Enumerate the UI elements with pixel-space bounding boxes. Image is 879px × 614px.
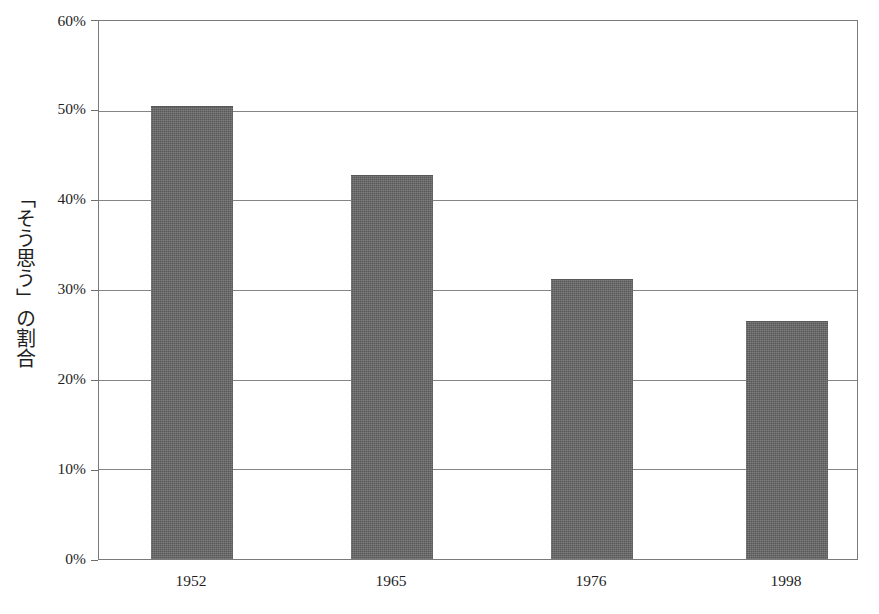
y-tick-mark-0 [91, 560, 98, 561]
y-tick-mark-50 [91, 110, 98, 111]
x-tick-label-1998: 1998 [726, 572, 846, 590]
y-tick-label-40: 40% [22, 190, 86, 208]
bar-1965 [351, 175, 433, 559]
y-tick-label-0: 0% [22, 550, 86, 568]
bar-chart-figure: 「そう思う」の割合 60% 50% 40% 30% 20% 10% 0% 195… [0, 0, 879, 614]
y-tick-mark-10 [91, 470, 98, 471]
plot-area [98, 20, 858, 560]
y-tick-label-50: 50% [22, 100, 86, 118]
y-tick-mark-20 [91, 380, 98, 381]
x-tick-label-1965: 1965 [331, 572, 451, 590]
y-tick-mark-40 [91, 200, 98, 201]
x-tick-label-1976: 1976 [531, 572, 651, 590]
bar-1952 [151, 106, 233, 559]
y-tick-mark-30 [91, 290, 98, 291]
y-tick-label-10: 10% [22, 460, 86, 478]
y-tick-label-20: 20% [22, 370, 86, 388]
y-tick-mark-60 [91, 20, 98, 21]
caption-strip [70, 603, 830, 614]
bar-1976 [551, 279, 633, 559]
y-tick-label-30: 30% [22, 280, 86, 298]
y-tick-label-60: 60% [22, 12, 86, 30]
bar-1998 [746, 321, 828, 559]
x-tick-label-1952: 1952 [131, 572, 251, 590]
